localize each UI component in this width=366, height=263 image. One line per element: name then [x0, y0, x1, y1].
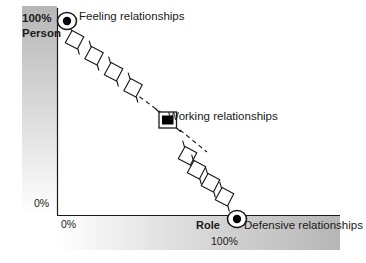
y-axis-max-label: 100% — [22, 13, 51, 25]
chain-links-upper — [59, 25, 148, 102]
relationship-continuum-diagram: 100% Person 0% 0% Role 100% Feeling rela… — [0, 0, 366, 263]
x-axis-min-label: 0% — [61, 219, 76, 230]
annotation-label-defensive: Defensive relationships — [244, 220, 363, 232]
y-axis-name-label: Person — [22, 28, 61, 40]
x-axis-name-label: Role — [196, 220, 220, 231]
annotation-label-feeling: Feeling relationships — [79, 11, 184, 23]
x-axis-max-label: 100% — [211, 236, 238, 247]
annotation-label-working: Working relationships — [168, 111, 278, 123]
y-axis-min-label: 0% — [34, 198, 49, 209]
